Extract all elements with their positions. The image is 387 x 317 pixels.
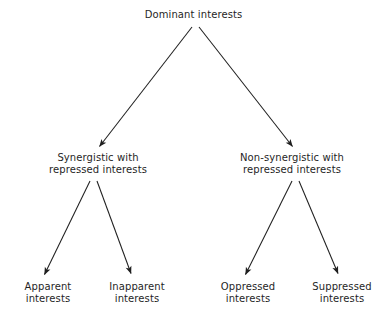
node-label-apparent-line1: Apparent: [3, 281, 93, 293]
node-label-non-synergistic-line1: Non-synergistic with: [197, 152, 387, 164]
edge-root-to-synergistic: [100, 27, 193, 147]
node-label-suppressed-line2: interests: [297, 293, 387, 305]
node-suppressed-interests: Suppressed interests: [297, 281, 387, 304]
edge-synergistic-to-apparent: [45, 181, 91, 275]
edge-root-to-non-synergistic: [199, 27, 293, 147]
node-label-oppressed-line2: interests: [203, 293, 293, 305]
node-label-dominant-interests: Dominant interests: [0, 9, 387, 21]
edge-non-synergistic-to-suppressed: [299, 181, 338, 274]
node-label-inapparent-line1: Inapparent: [92, 281, 182, 293]
edge-synergistic-to-inapparent: [97, 181, 131, 274]
node-synergistic: Synergistic with repressed interests: [0, 152, 196, 175]
node-label-inapparent-line2: interests: [92, 293, 182, 305]
node-label-apparent-line2: interests: [3, 293, 93, 305]
node-label-synergistic-line1: Synergistic with: [0, 152, 196, 164]
node-oppressed-interests: Oppressed interests: [203, 281, 293, 304]
node-inapparent-interests: Inapparent interests: [92, 281, 182, 304]
node-label-suppressed-line1: Suppressed: [297, 281, 387, 293]
tree-diagram: Dominant interests Synergistic with repr…: [0, 0, 387, 317]
node-non-synergistic: Non-synergistic with repressed interests: [197, 152, 387, 175]
node-apparent-interests: Apparent interests: [3, 281, 93, 304]
node-label-oppressed-line1: Oppressed: [203, 281, 293, 293]
node-label-non-synergistic-line2: repressed interests: [197, 164, 387, 176]
edge-non-synergistic-to-oppressed: [246, 181, 293, 275]
node-dominant-interests: Dominant interests: [0, 9, 387, 21]
node-label-synergistic-line2: repressed interests: [0, 164, 196, 176]
